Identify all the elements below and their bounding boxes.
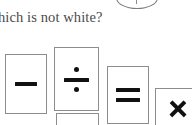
answer-card-minus[interactable] (5, 54, 47, 114)
screenshot-root: hich is not white? (0, 0, 192, 125)
blank-card-icon (57, 114, 98, 125)
partial-circle-stem-icon (136, 0, 137, 4)
equals-icon (108, 67, 148, 123)
multiply-icon (156, 89, 192, 125)
equals-bar-top (116, 88, 140, 92)
divide-bar (64, 78, 88, 82)
answer-card-equals[interactable] (107, 66, 149, 124)
divide-dot-bottom (74, 87, 79, 92)
answer-card-divide[interactable] (54, 47, 99, 111)
minus-bar (15, 82, 37, 86)
answer-card-partial[interactable] (56, 113, 99, 125)
question-text: hich is not white? (0, 9, 103, 26)
answer-card-multiply[interactable] (155, 88, 192, 125)
equals-bar-bottom (116, 98, 140, 102)
divide-dot-top (74, 67, 79, 72)
minus-icon (6, 55, 46, 113)
divide-icon (55, 48, 98, 110)
